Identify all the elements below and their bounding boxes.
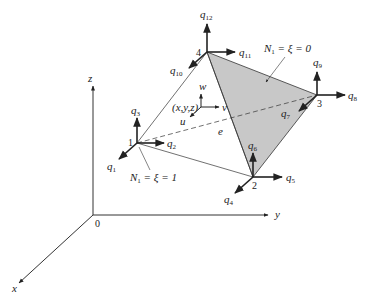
q11-label: q11 [239,46,252,60]
svg-text:N1 = ξ = 1: N1 = ξ = 1 [129,171,177,185]
u-label: u [180,115,186,127]
tetrahedron [137,52,317,177]
z-axis-label: z [87,72,93,84]
node-4-label: 4 [196,47,201,58]
q10-label: q10 [170,64,183,78]
q5-label: q5 [286,171,296,185]
x-axis-label: x [11,282,17,294]
tetrahedron-diagram: z y x 0 1 q3 q2 q1 2 q6 q5 q4 3 q9 [0,0,369,300]
point-label: (x,y,z) [172,101,199,114]
leader-line [139,147,150,170]
v-label: v [222,101,227,113]
leader-line [266,57,285,82]
element-label: e [218,125,223,137]
annotation-face-zero: N1 = ξ = 0 [263,42,311,82]
origin-label: 0 [95,218,100,229]
q4-arrow [235,177,253,193]
q3-label: q3 [131,104,141,118]
node-2-label: 2 [252,180,257,191]
q1-label: q1 [107,160,117,174]
q9-label: q9 [313,56,323,70]
x-axis [19,215,93,283]
q8-label: q8 [348,89,358,103]
q4-label: q4 [224,193,234,207]
shaded-face [207,52,317,177]
w-label: w [199,80,207,92]
node-1: 1 q3 q2 q1 [107,104,177,174]
node-1-label: 1 [128,137,133,148]
svg-text:N1 = ξ = 0: N1 = ξ = 0 [263,42,311,56]
y-axis-label: y [274,208,280,220]
q2-label: q2 [167,137,177,151]
node-3-label: 3 [317,98,322,109]
interior-point: (x,y,z) w v u e [172,80,227,137]
q12-label: q12 [200,8,213,22]
